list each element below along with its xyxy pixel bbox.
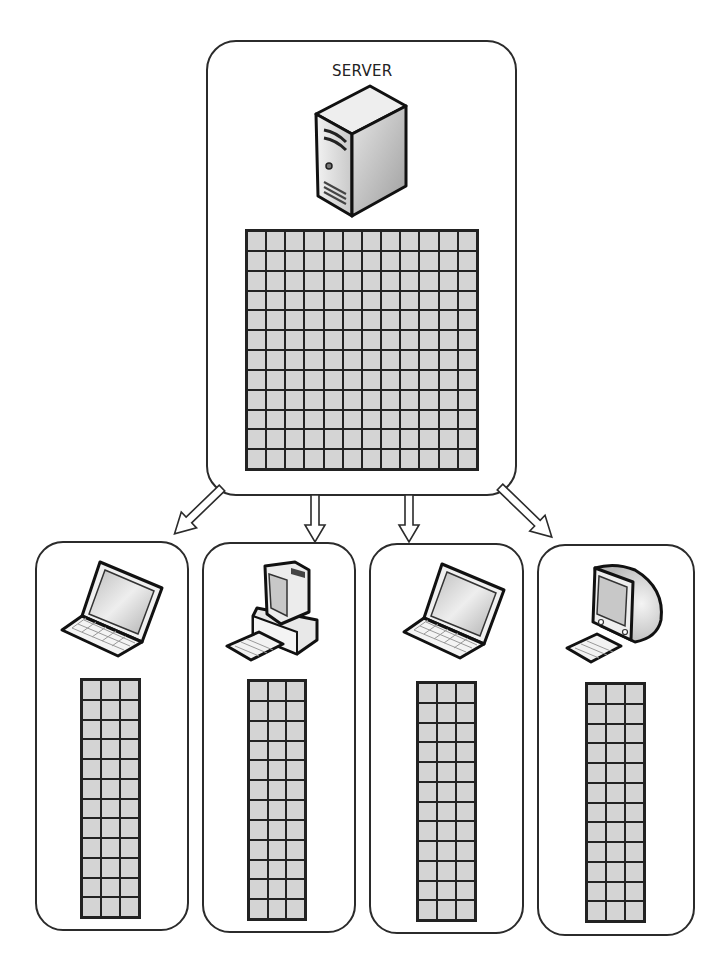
grid-cell <box>250 801 267 819</box>
grid-cell <box>287 801 304 819</box>
grid-cell <box>607 902 624 920</box>
grid-cell <box>102 760 119 778</box>
grid-cell <box>269 742 286 760</box>
grid-cell <box>626 784 643 802</box>
grid-cell <box>102 701 119 719</box>
grid-cell <box>121 800 138 818</box>
arrow-to-client-4 <box>492 479 559 545</box>
grid-cell <box>121 721 138 739</box>
grid-cell <box>83 681 100 699</box>
grid-cell <box>121 898 138 916</box>
grid-cell <box>83 721 100 739</box>
grid-cell <box>269 861 286 879</box>
grid-cell <box>269 761 286 779</box>
grid-cell <box>83 879 100 897</box>
grid-cell <box>419 862 436 880</box>
grid-cell <box>626 883 643 901</box>
grid-cell <box>102 819 119 837</box>
grid-cell <box>607 823 624 841</box>
grid-cell <box>626 843 643 861</box>
grid-cell <box>419 783 436 801</box>
grid-cell <box>250 841 267 859</box>
grid-cell <box>121 859 138 877</box>
crt-monitor-icon <box>565 560 675 665</box>
grid-cell <box>626 705 643 723</box>
grid-cell <box>588 685 605 703</box>
grid-cell <box>121 839 138 857</box>
grid-cell <box>457 724 474 742</box>
grid-cell <box>102 839 119 857</box>
grid-cell <box>607 843 624 861</box>
grid-cell <box>588 744 605 762</box>
grid-cell <box>457 763 474 781</box>
grid-cell <box>457 684 474 702</box>
grid-cell <box>457 803 474 821</box>
grid-cell <box>269 880 286 898</box>
grid-cell <box>250 682 267 700</box>
grid-cell <box>121 879 138 897</box>
grid-cell <box>287 781 304 799</box>
client-2-data-grid <box>247 679 307 921</box>
grid-cell <box>438 783 455 801</box>
client-4-data-grid <box>585 682 646 923</box>
grid-cell <box>457 704 474 722</box>
grid-cell <box>83 898 100 916</box>
grid-cell <box>438 862 455 880</box>
grid-cell <box>83 839 100 857</box>
grid-cell <box>83 760 100 778</box>
grid-cell <box>121 681 138 699</box>
grid-cell <box>457 783 474 801</box>
laptop-icon <box>400 560 508 660</box>
grid-cell <box>250 900 267 918</box>
grid-cell <box>250 722 267 740</box>
grid-cell <box>419 684 436 702</box>
grid-cell <box>607 744 624 762</box>
grid-cell <box>287 702 304 720</box>
grid-cell <box>457 743 474 761</box>
grid-cell <box>102 898 119 916</box>
grid-cell <box>419 822 436 840</box>
grid-cell <box>269 841 286 859</box>
grid-cell <box>102 740 119 758</box>
client-3-data-grid <box>416 681 477 922</box>
laptop-icon <box>58 558 166 658</box>
grid-cell <box>121 760 138 778</box>
grid-cell <box>269 781 286 799</box>
grid-cell <box>121 819 138 837</box>
grid-cell <box>83 701 100 719</box>
grid-cell <box>250 781 267 799</box>
grid-cell <box>626 902 643 920</box>
grid-cell <box>588 784 605 802</box>
grid-cell <box>250 880 267 898</box>
grid-cell <box>588 764 605 782</box>
grid-cell <box>419 842 436 860</box>
grid-cell <box>250 861 267 879</box>
grid-cell <box>269 821 286 839</box>
grid-cell <box>607 725 624 743</box>
grid-cell <box>102 800 119 818</box>
grid-cell <box>287 682 304 700</box>
grid-cell <box>419 724 436 742</box>
grid-cell <box>287 841 304 859</box>
grid-cell <box>588 863 605 881</box>
grid-cell <box>438 684 455 702</box>
grid-cell <box>419 743 436 761</box>
grid-cell <box>438 822 455 840</box>
grid-cell <box>588 843 605 861</box>
grid-cell <box>607 883 624 901</box>
grid-cell <box>438 803 455 821</box>
grid-cell <box>250 821 267 839</box>
grid-cell <box>419 704 436 722</box>
grid-cell <box>287 761 304 779</box>
grid-cell <box>287 742 304 760</box>
grid-cell <box>438 842 455 860</box>
grid-cell <box>438 704 455 722</box>
grid-cell <box>438 882 455 900</box>
client-1-data-grid <box>80 678 141 919</box>
grid-cell <box>102 721 119 739</box>
grid-cell <box>287 722 304 740</box>
grid-cell <box>626 725 643 743</box>
grid-cell <box>250 742 267 760</box>
grid-cell <box>102 780 119 798</box>
grid-cell <box>626 823 643 841</box>
